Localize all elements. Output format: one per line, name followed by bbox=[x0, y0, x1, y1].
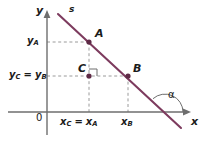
x-axis-arrow-icon bbox=[183, 109, 191, 116]
tick-ya-var: y bbox=[27, 35, 34, 46]
point-b-label: B bbox=[133, 63, 141, 74]
tick-label-xb: xB bbox=[121, 117, 133, 127]
line-s bbox=[58, 14, 181, 128]
point-c-marker bbox=[86, 73, 91, 78]
tick-yc-sub: C bbox=[16, 73, 21, 81]
point-a-label: A bbox=[95, 28, 104, 39]
x-axis-label: x bbox=[191, 116, 198, 127]
y-axis-arrow-icon bbox=[44, 10, 51, 18]
tick-xca-equals: = bbox=[71, 116, 85, 127]
tick-label-ya: yA bbox=[27, 36, 39, 46]
line-s-label: s bbox=[69, 5, 74, 14]
angle-alpha-label: α bbox=[168, 90, 175, 100]
tick-ycb-equals: = bbox=[21, 69, 35, 80]
y-axis-label: y bbox=[36, 5, 43, 16]
origin-label: 0 bbox=[36, 113, 42, 123]
tick-yc-var: y bbox=[9, 69, 16, 80]
tick-label-ycb: yC=yB bbox=[9, 70, 47, 80]
tick-yb-sub: B bbox=[41, 73, 46, 81]
point-c-label: C bbox=[78, 63, 86, 74]
tick-xc-sub: C bbox=[66, 120, 71, 128]
tick-ya-sub: A bbox=[34, 39, 39, 47]
tick-label-xca: xC=xA bbox=[60, 117, 98, 127]
point-b-marker bbox=[125, 73, 130, 78]
point-a-marker bbox=[86, 39, 91, 44]
tick-xa-sub: A bbox=[92, 120, 97, 128]
coordinate-diagram: y x 0 s α A B C yA yC=yB xC=xA xB bbox=[0, 0, 203, 141]
tick-xb-sub: B bbox=[127, 120, 132, 128]
